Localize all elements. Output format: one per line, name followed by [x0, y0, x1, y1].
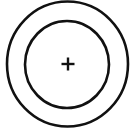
icon-canvas	[0, 0, 136, 136]
add-target-icon	[0, 0, 136, 136]
